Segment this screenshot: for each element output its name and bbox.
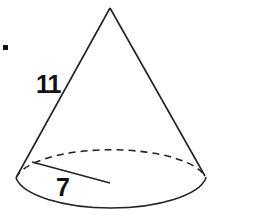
radius-label: 7 (56, 175, 70, 200)
slant-height-label: 11 (36, 72, 60, 97)
cone-base-front (16, 178, 206, 208)
cone-base-back-dashed (16, 150, 206, 178)
cone-diagram (0, 0, 273, 215)
cone-radius-line (32, 162, 110, 183)
cone-right-slant-edge (110, 8, 205, 176)
